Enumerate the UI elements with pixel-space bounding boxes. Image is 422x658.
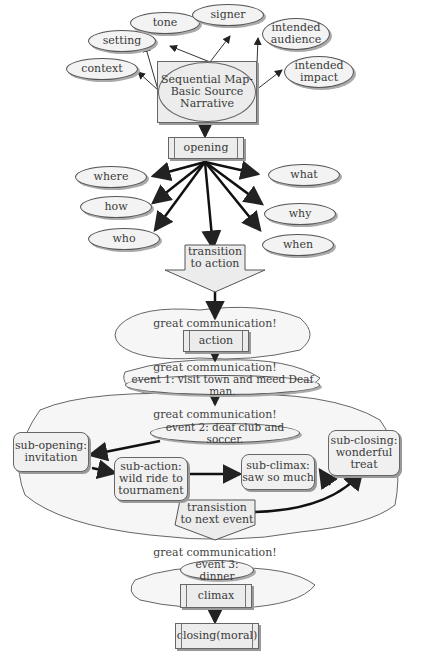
title-ellipse: Sequential Map- Basic Source Narrative — [158, 62, 256, 122]
node-why: why — [264, 203, 336, 225]
label: event 1: visit town and meed Deaf man. — [126, 373, 319, 397]
label: climax — [198, 590, 234, 602]
node-how: how — [80, 196, 152, 218]
node-what: what — [268, 164, 340, 186]
label: what — [290, 169, 317, 181]
transition-to-action: transition to action — [185, 246, 245, 270]
label: opening — [184, 142, 229, 154]
transition-to-next-event: transistion to next event — [180, 501, 254, 527]
label: sub-closing: wonderful treat — [329, 435, 399, 471]
label: where — [94, 171, 129, 183]
label: intended impact — [285, 60, 353, 84]
label: who — [112, 233, 135, 245]
label: sub-opening: invitation — [14, 440, 88, 464]
label: why — [289, 208, 312, 220]
node-context: context — [66, 58, 138, 80]
node-who: who — [88, 228, 160, 250]
label: intended audience — [263, 22, 329, 46]
node-where: where — [75, 166, 147, 188]
node-event-2: event 2: deaf club and soccer. — [150, 423, 300, 443]
label: how — [104, 201, 127, 213]
diagram-title: Sequential Map- Basic Source Narrative — [159, 74, 255, 110]
label: event 3: dinner — [181, 558, 253, 582]
node-intended-impact: intended impact — [284, 56, 354, 88]
node-closing: closing(moral) — [175, 623, 259, 649]
label: transition to action — [185, 246, 245, 270]
node-opening: opening — [168, 137, 244, 159]
label: closing(moral) — [177, 630, 258, 642]
label: context — [81, 63, 122, 75]
cloud-label-3: great communication! — [150, 408, 280, 421]
label: action — [199, 335, 233, 347]
node-event-3: event 3: dinner — [180, 560, 254, 580]
node-tone: tone — [130, 12, 200, 34]
label: setting — [103, 35, 142, 47]
node-action: action — [183, 330, 249, 352]
node-sub-opening: sub-opening: invitation — [13, 432, 89, 472]
label: sub-action: wild ride to tournament — [115, 461, 187, 497]
node-sub-climax: sub-climax: saw so much — [241, 454, 315, 490]
node-signer: signer — [192, 4, 264, 26]
cloud-label-1: great communication! — [150, 317, 280, 330]
node-setting: setting — [88, 30, 156, 52]
node-event-1: event 1: visit town and meed Deaf man. — [125, 375, 320, 395]
label: transistion to next event — [180, 502, 254, 526]
node-sub-action: sub-action: wild ride to tournament — [114, 457, 188, 501]
node-sub-closing: sub-closing: wonderful treat — [328, 430, 400, 476]
label: sub-climax: saw so much — [242, 460, 314, 484]
label: when — [283, 239, 313, 251]
node-when: when — [262, 234, 334, 256]
label: tone — [153, 17, 178, 29]
node-climax: climax — [180, 584, 252, 608]
label: event 2: deaf club and soccer. — [151, 421, 299, 445]
title-box: Sequential Map- Basic Source Narrative — [157, 61, 257, 123]
label: signer — [210, 9, 245, 21]
node-intended-audience: intended audience — [262, 18, 330, 50]
